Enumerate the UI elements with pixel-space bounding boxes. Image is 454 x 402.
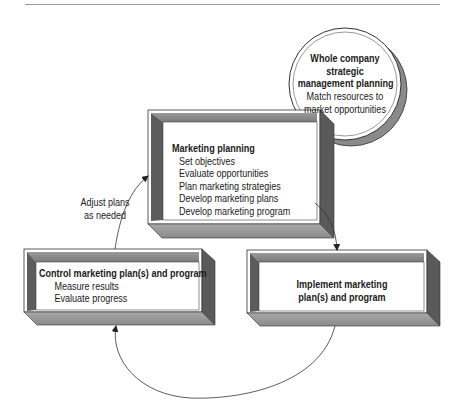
planning-item: Evaluate opportunities (172, 167, 290, 180)
strategic-title-line-2: strategic (298, 65, 393, 78)
arrow-implement-to-control (115, 326, 335, 398)
control-item: Evaluate progress (39, 292, 207, 305)
strategic-title: Whole company strategic management plann… (298, 52, 393, 90)
control-item: Measure results (39, 280, 207, 293)
planning-item: Develop marketing plans (172, 192, 290, 205)
adjust-plans-label: Adjust plans as needed (75, 196, 135, 221)
planning-item: Set objectives (172, 155, 290, 168)
implement-title: Implement marketing plan(s) and program (290, 278, 393, 303)
implement-title-line-1: Implement marketing (290, 278, 393, 291)
implement-title-line-2: plan(s) and program (290, 291, 393, 304)
strategic-item: market opportunities (298, 103, 393, 116)
planning-content: Marketing planning Set objectives Evalua… (172, 142, 290, 218)
strategic-item: Match resources to (298, 90, 393, 103)
planning-title: Marketing planning (172, 142, 290, 155)
strategic-title-line-3: management planning (298, 77, 393, 90)
strategic-title-line-1: Whole company (298, 52, 393, 65)
planning-item: Develop marketing program (172, 205, 290, 218)
adjust-plans-label-line-1: Adjust plans (75, 196, 135, 209)
strategic-items: Match resources to market opportunities (298, 90, 393, 115)
control-content: Control marketing plan(s) and program Me… (39, 267, 207, 305)
planning-item: Plan marketing strategies (172, 180, 290, 193)
adjust-plans-label-line-2: as needed (75, 209, 135, 222)
control-title: Control marketing plan(s) and program (39, 267, 207, 280)
